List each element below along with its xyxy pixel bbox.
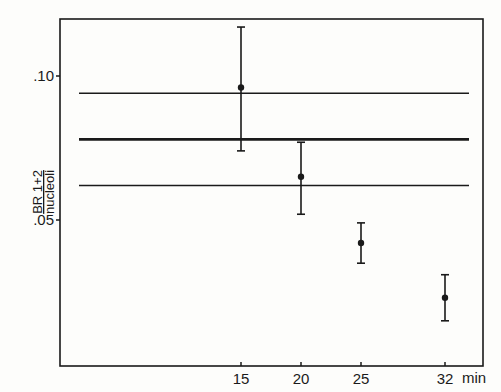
data-point (358, 240, 364, 246)
chart: .05.10 15202532 min BR 1+2 nucleoli (0, 0, 501, 392)
x-tick-label: 32 (437, 370, 454, 387)
y-axis-label-denominator: nucleoli (42, 170, 57, 214)
y-axis-label: BR 1+2 nucleoli (30, 170, 57, 214)
x-tick-label: 15 (233, 370, 250, 387)
data-point-group (441, 275, 449, 321)
y-tick-label: .10 (33, 67, 54, 84)
plot-frame (60, 19, 483, 366)
data-point (238, 84, 244, 90)
data-point (298, 174, 304, 180)
x-axis-label: min (462, 369, 486, 386)
x-tick-label: 20 (293, 370, 310, 387)
data-point-group (297, 142, 305, 214)
data-point-group (357, 223, 365, 263)
data-point-group (237, 27, 245, 151)
x-tick-label: 25 (353, 370, 370, 387)
data-point (442, 295, 448, 301)
